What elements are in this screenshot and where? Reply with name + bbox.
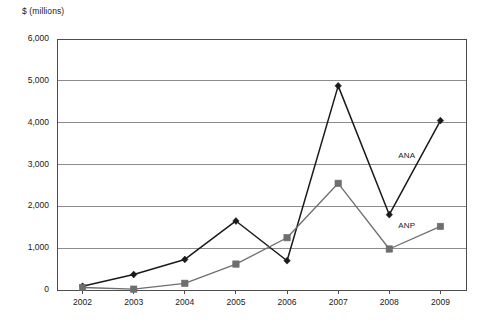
x-axis-tick-label: 2002	[58, 297, 108, 307]
y-axis-tick-label: 6,000	[4, 33, 49, 43]
y-axis-tick-label: 2,000	[4, 200, 49, 210]
x-axis-tick-label: 2007	[313, 297, 363, 307]
x-axis-tick-label: 2009	[415, 297, 465, 307]
x-axis-tick-label: 2006	[262, 297, 312, 307]
x-axis-tick-label: 2003	[109, 297, 159, 307]
y-axis-tick-label: 4,000	[4, 117, 49, 127]
plot-area	[0, 0, 486, 322]
data-point-markers	[79, 82, 443, 292]
series-label-anp: ANP	[398, 221, 415, 230]
data-series-group	[83, 86, 441, 289]
y-axis-tick-label: 1,000	[4, 242, 49, 252]
series-label-ana: ANA	[398, 151, 415, 160]
y-axis-tick-label: 0	[4, 284, 49, 294]
y-axis-tick-label: 3,000	[4, 159, 49, 169]
x-axis-tick-label: 2008	[364, 297, 414, 307]
y-axis-tick-label: 5,000	[4, 75, 49, 85]
x-axis-tick-label: 2004	[160, 297, 210, 307]
line-chart: $ (millions) 01,0002,0003,0004,0005,0006…	[0, 0, 486, 322]
x-axis-tick-label: 2005	[211, 297, 261, 307]
y-axis-title: $ (millions)	[22, 6, 64, 16]
